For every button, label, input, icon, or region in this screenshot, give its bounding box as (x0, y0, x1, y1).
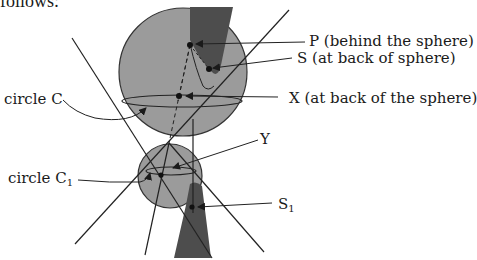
label-s1: S1 (278, 197, 295, 214)
point-x (176, 93, 182, 99)
label-circle-c: circle C (4, 92, 63, 107)
leader-s1 (198, 203, 272, 207)
label-circle-c1: circle C1 (8, 171, 73, 188)
point-s1 (189, 204, 194, 209)
label-x: X (at back of the sphere) (289, 91, 477, 106)
point-s (206, 66, 212, 72)
point-c1 (158, 172, 163, 177)
label-y: Y (260, 132, 270, 147)
point-p (187, 42, 193, 48)
label-s1-sub: 1 (288, 203, 294, 214)
label-s: S (at back of sphere) (297, 51, 456, 66)
label-s1-main: S (278, 195, 288, 213)
label-circle-c1-main: circle C (8, 169, 67, 187)
label-p: P (behind the sphere) (309, 34, 474, 49)
label-circle-c1-sub: 1 (67, 177, 73, 188)
